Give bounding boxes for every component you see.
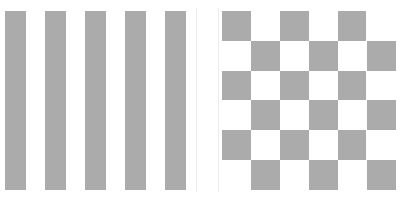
checker-cell-filled xyxy=(280,130,309,160)
checker-cell-empty xyxy=(251,11,280,41)
checker-cell-filled xyxy=(251,160,280,190)
stripe-bar xyxy=(5,11,26,190)
stripe-bar xyxy=(85,11,106,190)
checkerboard-panel-left-edge xyxy=(218,8,219,192)
figure-root xyxy=(0,0,416,200)
checker-cell-empty xyxy=(309,130,338,160)
stripes-plot-area xyxy=(5,11,196,190)
stripe-bar xyxy=(45,11,66,190)
checker-cell-empty xyxy=(367,11,396,41)
checker-cell-filled xyxy=(280,71,309,101)
checker-cell-empty xyxy=(251,71,280,101)
checker-cell-empty xyxy=(222,41,251,71)
stripe-bar xyxy=(125,11,146,190)
checker-cell-filled xyxy=(338,11,367,41)
checker-cell-empty xyxy=(309,11,338,41)
checker-cell-filled xyxy=(309,160,338,190)
checker-cell-filled xyxy=(338,71,367,101)
checkerboard-seam-line xyxy=(366,11,367,190)
checker-cell-empty xyxy=(280,41,309,71)
checker-cell-filled xyxy=(338,130,367,160)
checker-cell-empty xyxy=(222,100,251,130)
stripes-panel-right-edge xyxy=(196,8,197,192)
checker-cell-filled xyxy=(280,11,309,41)
stripe-gap xyxy=(26,11,45,190)
checker-cell-filled xyxy=(251,100,280,130)
checker-cell-empty xyxy=(280,160,309,190)
stripe-gap xyxy=(66,11,85,190)
panel-vertical-stripes xyxy=(0,0,208,200)
checker-cell-filled xyxy=(222,130,251,160)
checker-cell-empty xyxy=(367,71,396,101)
checker-cell-empty xyxy=(367,130,396,160)
checker-cell-filled xyxy=(251,41,280,71)
stripe-gap xyxy=(146,11,165,190)
checker-cell-empty xyxy=(338,41,367,71)
checker-cell-empty xyxy=(338,100,367,130)
checker-cell-filled xyxy=(222,71,251,101)
checker-cell-empty xyxy=(280,100,309,130)
checker-cell-empty xyxy=(338,160,367,190)
checker-cell-filled xyxy=(309,100,338,130)
checkerboard-plot-area xyxy=(222,11,402,190)
stripe-gap xyxy=(106,11,125,190)
stripe-bar xyxy=(165,11,186,190)
panel-checkerboard xyxy=(208,0,416,200)
checker-cell-filled xyxy=(309,41,338,71)
checker-cell-empty xyxy=(309,71,338,101)
checker-cell-filled xyxy=(367,41,396,71)
checker-cell-empty xyxy=(222,160,251,190)
checker-cell-filled xyxy=(222,11,251,41)
checker-cell-filled xyxy=(367,160,396,190)
checker-cell-filled xyxy=(367,100,396,130)
checker-cell-empty xyxy=(251,130,280,160)
